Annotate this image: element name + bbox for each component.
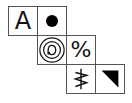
circled-symbol-icon xyxy=(38,35,66,65)
percent-sign: % xyxy=(71,39,92,61)
black-triangle-icon xyxy=(96,64,124,94)
cell-circled-symbol xyxy=(37,35,67,65)
cell-zigzag xyxy=(66,64,96,94)
letter-a: A xyxy=(15,9,31,33)
cell-percent: % xyxy=(66,35,96,65)
zigzag-symbol-icon xyxy=(67,64,95,94)
filled-circle-icon xyxy=(46,15,58,27)
cell-filled-circle xyxy=(37,6,67,36)
cell-black-triangle xyxy=(95,64,125,94)
cell-letter-a: A xyxy=(8,6,38,36)
